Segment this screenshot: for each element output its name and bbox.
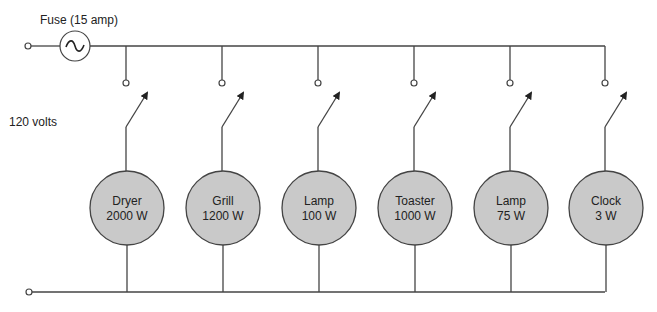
switch-open-icon[interactable] (222, 93, 243, 127)
switch-contact (123, 80, 129, 86)
load-circle (378, 171, 452, 245)
load-circle (474, 171, 548, 245)
load-power: 75 W (497, 209, 526, 223)
branch-1: Dryer 2000 W (90, 46, 164, 292)
load-circle (569, 171, 643, 245)
switch-open-icon[interactable] (318, 93, 339, 127)
load-power: 1200 W (202, 209, 244, 223)
load-power: 100 W (302, 209, 337, 223)
voltage-label: 120 volts (9, 115, 57, 129)
switch-contact (315, 80, 321, 86)
branch-3: Lamp 100 W (282, 46, 356, 292)
load-power: 1000 W (394, 209, 436, 223)
load-circle (186, 171, 260, 245)
load-circle (90, 171, 164, 245)
supply-terminal-top (25, 43, 31, 49)
load-name: Grill (212, 194, 233, 208)
switch-contact (602, 80, 608, 86)
load-circle (282, 171, 356, 245)
fuse-label: Fuse (15 amp) (40, 13, 118, 27)
load-name: Lamp (496, 194, 526, 208)
load-name: Toaster (395, 194, 434, 208)
switch-contact (219, 80, 225, 86)
switch-contact (507, 80, 513, 86)
load-name: Clock (591, 194, 622, 208)
load-power: 2000 W (106, 209, 148, 223)
switch-open-icon[interactable] (414, 93, 435, 127)
switch-contact (411, 80, 417, 86)
branch-6: Clock 3 W (569, 46, 643, 292)
supply-terminal-bottom (26, 289, 32, 295)
load-power: 3 W (595, 209, 617, 223)
switch-open-icon[interactable] (605, 93, 626, 127)
branch-4: Toaster 1000 W (378, 46, 452, 292)
switch-open-icon[interactable] (126, 93, 147, 127)
branch-2: Grill 1200 W (186, 46, 260, 292)
branch-5: Lamp 75 W (474, 46, 548, 292)
switch-open-icon[interactable] (510, 93, 531, 127)
parallel-circuit-diagram: Fuse (15 amp) 120 volts Dryer 2000 W Gri… (0, 0, 657, 312)
load-name: Dryer (112, 194, 141, 208)
load-name: Lamp (304, 194, 334, 208)
